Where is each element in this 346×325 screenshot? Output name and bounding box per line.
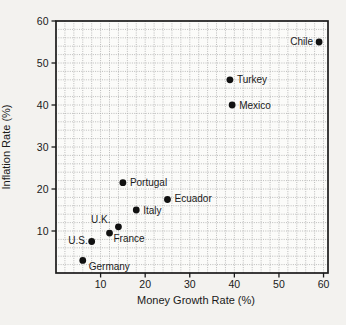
y-tick-label: 50 bbox=[37, 57, 49, 69]
y-axis-title: Inflation Rate (%) bbox=[0, 105, 12, 190]
data-point-turkey bbox=[227, 76, 234, 83]
data-point-germany bbox=[79, 257, 86, 264]
data-point-label-ecuador: Ecuador bbox=[174, 193, 212, 204]
y-tick-label: 60 bbox=[37, 15, 49, 27]
data-point-ecuador bbox=[164, 196, 171, 203]
x-tick-label: 10 bbox=[95, 278, 107, 290]
data-point-portugal bbox=[119, 179, 126, 186]
x-tick-label: 50 bbox=[273, 278, 285, 290]
data-point-uk bbox=[115, 223, 122, 230]
data-point-france bbox=[106, 230, 113, 237]
y-tick-label: 20 bbox=[37, 183, 49, 195]
data-point-label-turkey: Turkey bbox=[237, 74, 267, 85]
data-point-label-portugal: Portugal bbox=[130, 177, 167, 188]
data-point-us bbox=[88, 238, 95, 245]
data-point-chile bbox=[316, 39, 323, 46]
x-tick-label: 40 bbox=[229, 278, 241, 290]
x-tick-label: 30 bbox=[184, 278, 196, 290]
data-point-label-italy: Italy bbox=[143, 205, 161, 216]
data-point-label-uk: U.K. bbox=[91, 214, 110, 225]
x-tick-label: 20 bbox=[139, 278, 151, 290]
y-tick-label: 40 bbox=[37, 99, 49, 111]
data-point-italy bbox=[133, 207, 140, 214]
y-tick-label: 10 bbox=[37, 225, 49, 237]
y-tick-label: 30 bbox=[37, 141, 49, 153]
figure: 102030405060102030405060Money Growth Rat… bbox=[0, 0, 346, 325]
scatter-plot-svg: 102030405060102030405060Money Growth Rat… bbox=[0, 0, 346, 325]
data-point-label-chile: Chile bbox=[290, 36, 313, 47]
x-axis-title: Money Growth Rate (%) bbox=[137, 294, 255, 306]
data-point-mexico bbox=[229, 102, 236, 109]
data-point-label-germany: Germany bbox=[89, 261, 130, 272]
x-tick-label: 60 bbox=[318, 278, 330, 290]
data-point-label-us: U.S. bbox=[68, 235, 87, 246]
data-point-label-mexico: Mexico bbox=[239, 100, 271, 111]
data-point-label-france: France bbox=[114, 233, 146, 244]
